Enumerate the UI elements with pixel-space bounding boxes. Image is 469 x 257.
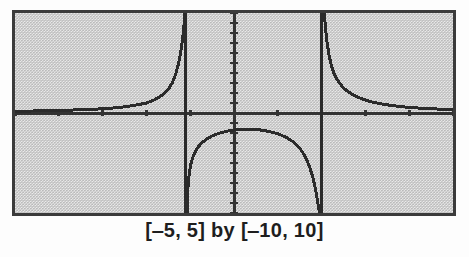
axes-group — [15, 13, 453, 213]
curve-middle-branch — [187, 129, 319, 213]
calculator-screen — [12, 10, 456, 216]
graphing-calculator-figure: [‒5, 5] by [‒10, 10] — [0, 0, 469, 257]
curve-right-branch — [324, 13, 453, 110]
figure-caption: [‒5, 5] by [‒10, 10] — [0, 219, 469, 242]
curve-left-branch — [15, 13, 185, 111]
function-plot — [15, 13, 453, 213]
